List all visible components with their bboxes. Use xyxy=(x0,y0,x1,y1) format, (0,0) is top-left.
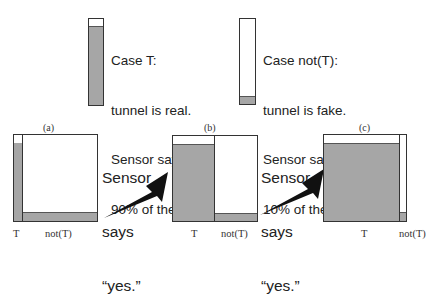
legend-bar-case-t-yes-fill xyxy=(89,27,103,105)
legend-bar-case-not-t xyxy=(239,18,256,105)
transition-2-line-2: says xyxy=(261,223,310,241)
legend-case-t-line-2: tunnel is real. xyxy=(111,103,219,120)
panel-c-not-t-yes-fill xyxy=(400,212,406,221)
legend-case-not-t-line-2: tunnel is fake. xyxy=(263,103,371,120)
panel-c-square xyxy=(323,134,407,222)
panel-c-t-separator xyxy=(324,143,399,144)
panel-a-not-t-label: not(T) xyxy=(45,228,72,239)
panel-b-not-t-label: not(T) xyxy=(221,228,248,239)
panel-c-label: (c) xyxy=(359,122,370,133)
panel-b-square xyxy=(172,135,258,222)
panel-a-square xyxy=(13,134,98,222)
legend-bar-case-t-separator xyxy=(89,26,103,27)
legend-case-not-t-line-1: Case not(T): xyxy=(263,53,371,70)
transition-2-line-3: “yes.” xyxy=(261,277,310,295)
transition-1-line-3: “yes.” xyxy=(102,277,151,295)
legend-case-t-line-1: Case T: xyxy=(111,53,219,70)
panel-c-not-t-separator xyxy=(400,212,406,213)
panel-a-not-t-separator xyxy=(23,212,97,213)
panel-b-t-label: T xyxy=(191,228,197,239)
legend-bar-case-not-t-separator xyxy=(240,96,255,97)
legend-bar-case-t xyxy=(88,18,104,106)
panel-a-label: (a) xyxy=(43,122,54,133)
legend-bar-case-not-t-yes-fill xyxy=(240,96,255,104)
arrow-icon xyxy=(258,169,318,219)
panel-a-t-label: T xyxy=(13,228,19,239)
panel-b-t-separator xyxy=(173,144,214,145)
panel-c-not-t-label: not(T) xyxy=(399,228,426,239)
panel-a-t-yes-fill xyxy=(14,143,22,221)
panel-b-not-t-separator xyxy=(215,213,257,214)
panel-c-t-yes-fill xyxy=(324,144,399,221)
panel-a-divider xyxy=(22,135,23,221)
panel-b-divider xyxy=(214,136,215,221)
panel-b-t-yes-fill xyxy=(173,145,214,221)
panel-b-label: (b) xyxy=(204,122,216,133)
panel-b-not-t-yes-fill xyxy=(215,213,257,221)
transition-1-line-2: says xyxy=(102,223,151,241)
panel-a-not-t-yes-fill xyxy=(23,212,97,221)
panel-c-t-label: T xyxy=(361,228,367,239)
panel-c-divider xyxy=(399,135,400,221)
arrow-icon xyxy=(102,172,162,222)
